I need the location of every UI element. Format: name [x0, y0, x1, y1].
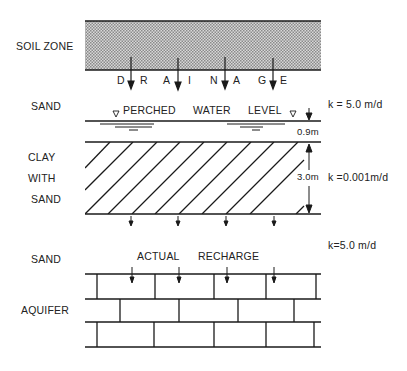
drainage-letter: D [117, 74, 125, 86]
dimension-0-9m-arrow [306, 108, 312, 120]
drainage-letter: A [233, 74, 240, 86]
k-value-lower-sand: k=5.0 m/d [328, 239, 376, 251]
label-sand-in-clay: SAND [31, 193, 61, 205]
dimension-3-0m-label: 3.0m [297, 171, 319, 182]
drainage-letter: A [163, 74, 170, 86]
level-label: LEVEL [248, 104, 282, 116]
water-label: WATER [193, 104, 231, 116]
drainage-letter: G [258, 74, 266, 86]
k-value-upper-sand: k = 5.0 m/d [328, 98, 382, 110]
label-sand-lower: SAND [31, 253, 61, 265]
perched-water-level [85, 121, 321, 130]
k-value-clay: k =0.001m/d [328, 171, 388, 183]
soil-zone-layer [85, 21, 321, 70]
seepage-arrows [129, 216, 276, 226]
label-sand-upper: SAND [31, 100, 61, 112]
dimension-0-9m-label: 0.9m [297, 126, 319, 137]
recharge-label: RECHARGE [198, 250, 259, 262]
label-clay: CLAY [28, 151, 55, 163]
label-soil-zone: SOIL ZONE [16, 40, 73, 52]
drainage-letter: I [188, 74, 191, 86]
actual-label: ACTUAL [137, 250, 180, 262]
recharge-arrows [130, 267, 276, 283]
clay-with-sand-layer [85, 142, 321, 214]
drainage-letter: E [280, 74, 287, 86]
drainage-letter: R [140, 74, 148, 86]
label-with: WITH [28, 172, 56, 184]
perched-label: PERCHED [123, 104, 176, 116]
drainage-letter: N [210, 74, 218, 86]
aquifer-layer [85, 274, 321, 347]
label-aquifer: AQUIFER [21, 304, 69, 316]
